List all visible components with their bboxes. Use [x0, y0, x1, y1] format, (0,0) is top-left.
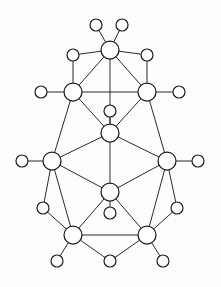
graph-edge	[116, 57, 140, 85]
graph-node-hub[interactable]	[138, 83, 156, 101]
graph-node-hub[interactable]	[158, 152, 176, 170]
graph-edge	[81, 240, 105, 257]
graph-edge	[44, 170, 50, 201]
graph-edge	[150, 101, 165, 152]
graph-node-leaf[interactable]	[104, 207, 116, 219]
graph-node-hub[interactable]	[43, 152, 61, 170]
graph-node-leaf[interactable]	[116, 19, 128, 31]
graph-edge	[154, 212, 172, 228]
graph-edge	[152, 243, 160, 255]
graph-node-leaf[interactable]	[141, 49, 153, 61]
graph-edge	[116, 99, 140, 126]
graph-edge	[116, 199, 141, 228]
graph-edge	[79, 199, 104, 228]
graph-edge	[48, 212, 66, 228]
graph-node-leaf[interactable]	[37, 202, 49, 214]
graph-node-leaf[interactable]	[90, 19, 102, 31]
graph-edge	[149, 170, 164, 226]
graph-node-leaf[interactable]	[173, 86, 185, 98]
graph-node-leaf[interactable]	[104, 255, 116, 267]
graph-edge	[60, 165, 101, 187]
graph-edge	[119, 137, 159, 157]
graph-edge	[79, 51, 100, 54]
graph-node-hub[interactable]	[138, 226, 156, 244]
graph-edge	[169, 170, 176, 201]
graph-node-leaf[interactable]	[157, 255, 169, 267]
graph-edge	[60, 243, 68, 255]
graph-edge	[55, 101, 70, 152]
graph-node-leaf[interactable]	[35, 86, 47, 98]
graph-node-hub[interactable]	[64, 226, 82, 244]
graph-edge	[115, 240, 139, 257]
graph-node-hub[interactable]	[101, 183, 119, 201]
graph-node-leaf[interactable]	[104, 105, 116, 117]
graph-edge	[61, 137, 102, 157]
graph-node-hub[interactable]	[64, 83, 82, 101]
graph-edge	[79, 57, 103, 85]
graph-node-leaf[interactable]	[16, 155, 28, 167]
graph-canvas	[0, 0, 221, 287]
graph-node-hub[interactable]	[101, 41, 119, 59]
graph-figure	[0, 0, 221, 287]
graph-edge	[99, 31, 105, 42]
graph-node-hub[interactable]	[101, 124, 119, 142]
graph-edge	[119, 51, 140, 54]
graph-node-leaf[interactable]	[51, 255, 63, 267]
graph-edge	[114, 31, 119, 42]
graph-node-leaf[interactable]	[192, 155, 204, 167]
graph-edge	[55, 170, 71, 226]
graph-edge	[79, 99, 103, 126]
graph-node-leaf[interactable]	[67, 49, 79, 61]
edge-layer	[29, 31, 192, 258]
graph-edge	[118, 166, 158, 188]
graph-node-leaf[interactable]	[171, 202, 183, 214]
